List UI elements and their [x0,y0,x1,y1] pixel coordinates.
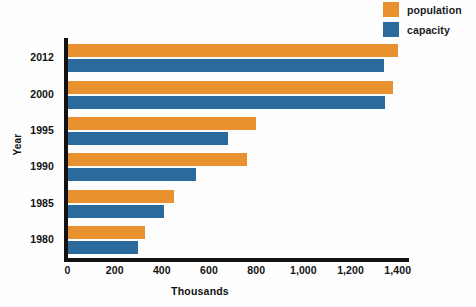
x-tick-label-0: 0 [65,264,71,276]
y-tick-label-1985: 1985 [30,197,54,209]
x-tick-label-200: 200 [106,264,124,276]
legend-swatch-capacity-icon [383,22,399,37]
legend-item-population: population [383,1,476,18]
bars-layer [68,40,410,258]
bar-capacity-1990 [68,168,197,181]
x-tick-label-400: 400 [153,264,171,276]
x-tick-label-600: 600 [200,264,218,276]
x-axis-line [64,258,409,262]
x-tick-label-1200: 1,200 [337,264,364,276]
bar-population-1985 [68,190,174,203]
bar-capacity-1980 [68,241,139,254]
legend-item-capacity: capacity [383,21,476,38]
bar-population-1980 [68,226,146,239]
bar-population-1990 [68,153,247,166]
bar-population-1995 [68,117,257,130]
bar-capacity-2012 [68,59,384,72]
y-axis-title: Year [12,115,23,175]
x-axis-title: Thousands [0,285,476,297]
x-tick-label-800: 800 [247,264,265,276]
y-axis-line [64,38,68,261]
chart-legend: population capacity [383,1,476,41]
y-tick-label-2000: 2000 [30,88,54,100]
bar-capacity-1985 [68,205,165,218]
y-axis-tick-labels: 201220001995199019851980 [0,40,62,258]
legend-label-population: population [407,4,462,16]
legend-label-capacity: capacity [407,24,450,36]
y-tick-label-1995: 1995 [30,124,54,136]
y-tick-label-2012: 2012 [30,51,54,63]
x-tick-label-1400: 1,400 [384,264,411,276]
bar-population-2012 [68,44,398,57]
x-tick-label-1000: 1,000 [290,264,317,276]
legend-swatch-population-icon [383,2,399,17]
x-axis-tick-labels: 02004006008001,0001,2001,400 [0,264,476,280]
x-axis-title-text: Thousands [171,285,229,297]
y-tick-label-1980: 1980 [30,233,54,245]
bar-population-2000 [68,81,393,94]
y-tick-label-1990: 1990 [30,160,54,172]
bar-capacity-1995 [68,132,228,145]
bar-chart: population capacity 20122000199519901985… [0,0,476,307]
bar-capacity-2000 [68,96,385,109]
